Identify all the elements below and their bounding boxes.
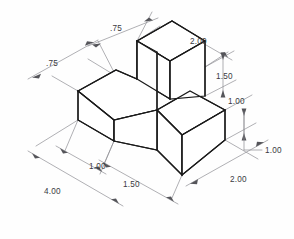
dim-label-top-block-height: 1.50 [216,72,233,81]
dim-label-base-depth: 2.00 [230,175,247,184]
dim-label-base-height: 1.00 [265,146,282,155]
dim-label-overall-length: 4.00 [44,187,61,196]
dim-label-left-arm-width: 1.00 [89,162,106,171]
dim-label-upper-left-depth: .75 [46,59,58,68]
dim-label-step-height: 1.00 [228,97,245,106]
dim-label-top-left-width: .75 [110,24,122,33]
isometric-technical-drawing: .75 .75 2.00 1.50 1.00 1.00 1.00 1.50 4.… [0,0,294,239]
dim-label-front-notch-width: 1.50 [123,180,140,189]
dim-label-top-block-length: 2.00 [190,37,207,46]
